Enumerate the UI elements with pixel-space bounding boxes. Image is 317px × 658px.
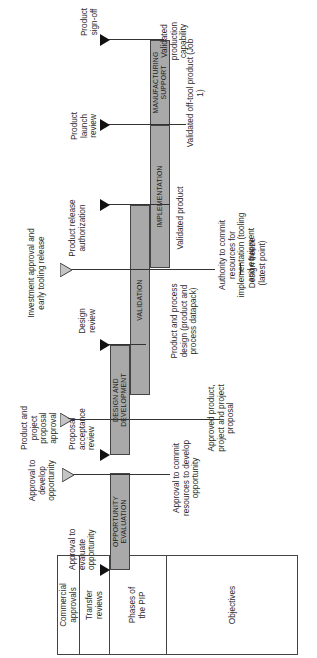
objective-label: Product and process design (product and … <box>170 276 199 366</box>
phase-validation: VALIDATION <box>130 205 150 395</box>
transfer-review-label: Approval to evaluate opportunity <box>68 510 97 570</box>
objective-label: Approval to commit resources to develop … <box>172 428 201 528</box>
transfer-review-label: Product release authorization <box>68 198 87 258</box>
commercial-approval-label: Product and project proposal approval <box>20 403 58 453</box>
transfer-review-triangle-icon <box>100 119 110 131</box>
row-objectives: Objectives <box>166 556 299 654</box>
milestone-line-investment-approval <box>70 269 215 270</box>
transfer-review-label: Design review <box>78 304 97 338</box>
transfer-review-triangle-icon <box>100 339 110 351</box>
phase-opportunity-evaluation: OPPORTUNITY EVALUATION <box>110 473 130 570</box>
phase-label: OPPORTUNITY EVALUATION <box>112 492 128 552</box>
phase-implementation: IMPLEMENTATION <box>150 125 170 268</box>
transfer-review-triangle-icon <box>100 564 110 576</box>
transfer-review-triangle-icon <box>100 199 110 211</box>
milestone-line-approval-develop <box>72 474 170 475</box>
commercial-approval-label: Investment approval and early tooling re… <box>27 228 46 318</box>
milestone-line-release-auth <box>108 204 170 205</box>
objective-label: Validated off-tool product (Job 1) <box>186 38 205 148</box>
phase-label: VALIDATION <box>136 279 144 320</box>
objective-label: Design freeze (latest point) <box>248 228 267 298</box>
row-label: Commercial approvals <box>59 575 78 635</box>
objective-label: Validated production capability <box>160 6 189 76</box>
row-label: Transfer reviews <box>85 580 104 630</box>
objective-label: Validated product <box>176 178 186 258</box>
phase-design-and-development: DESIGN AND DEVELOPMENT <box>110 345 130 455</box>
transfer-review-label: Product sign-off <box>80 4 99 40</box>
milestone-line-launch-review <box>108 124 186 125</box>
row-header-table: Commercial approvals Transfer reviews Ph… <box>57 555 298 655</box>
row-commercial-approvals: Commercial approvals <box>58 556 79 654</box>
row-label: Phases of the PIP <box>128 580 147 630</box>
pip-diagram: Commercial approvals Transfer reviews Ph… <box>0 0 317 658</box>
phase-label: DESIGN AND DEVELOPMENT <box>112 365 128 435</box>
milestone-line-design-review <box>108 344 146 345</box>
commercial-approval-label: Approval to develop opportunity <box>28 453 57 508</box>
row-label: Objectives <box>228 575 238 635</box>
transfer-review-triangle-icon <box>100 34 110 46</box>
phase-label: IMPLEMENTATION <box>156 165 164 227</box>
transfer-review-triangle-icon <box>100 449 110 461</box>
objective-label: Approved product, project and project pr… <box>207 378 236 458</box>
transfer-review-label: Product launch review <box>70 106 99 146</box>
row-phases: Phases of the PIP <box>109 556 166 654</box>
transfer-review-label: Proposal acceptance review <box>68 398 97 450</box>
milestone-line-sign-off <box>108 39 164 40</box>
